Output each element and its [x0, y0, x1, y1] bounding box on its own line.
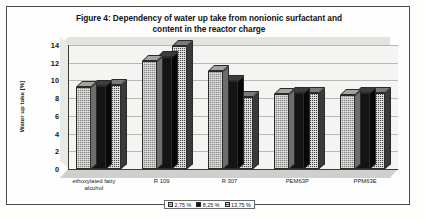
bar: [340, 95, 355, 169]
x-axis-labels: ethoxylated fattyalcoholR 109R 307PEM63P…: [60, 178, 399, 200]
bar-side: [319, 88, 325, 169]
legend-item: 2,75 %: [168, 202, 191, 208]
bar-side: [304, 88, 310, 169]
bar-side: [385, 88, 391, 169]
y-tick-label: 12: [37, 58, 59, 67]
bar-group: [68, 45, 134, 169]
legend-swatch: [168, 202, 173, 207]
bar: [208, 71, 223, 169]
bar-side: [238, 76, 244, 169]
legend-item: 8,25 %: [196, 202, 219, 208]
x-axis-label-line: PPM63E: [353, 178, 376, 184]
bar-side: [355, 90, 361, 169]
bar-group: [134, 45, 200, 169]
bar-side: [370, 88, 376, 169]
bar-group: [266, 45, 332, 169]
bar-group: [200, 45, 266, 169]
y-tick-label: 6: [37, 111, 59, 120]
x-axis-label: PPM63E: [331, 178, 399, 185]
bar-face: [340, 95, 355, 169]
x-axis-label-line: PEM63P: [286, 178, 309, 184]
bar: [76, 87, 91, 169]
plot-area: Water up take [%] 02468101214 ethoxylate…: [7, 7, 411, 204]
bar-groups: [68, 45, 398, 169]
x-axis-label-line: R 307: [222, 178, 238, 184]
bar: [274, 94, 289, 169]
legend-label: 2,75 %: [175, 202, 192, 208]
bar-side: [187, 41, 193, 169]
x-axis-label-line: R 109: [154, 178, 170, 184]
figure-frame: Figure 4: Dependency of water up take fr…: [6, 6, 410, 205]
legend-label: 8,25 %: [203, 202, 220, 208]
y-tick-label: 10: [37, 76, 59, 85]
bar-side: [91, 82, 97, 169]
y-tick-label: 4: [37, 129, 59, 138]
bar-side: [106, 81, 112, 169]
legend-label: 13,75 %: [231, 202, 251, 208]
x-axis-label: R 109: [128, 178, 196, 185]
legend-item: 13,75 %: [225, 202, 251, 208]
y-tick-label: 2: [37, 147, 59, 156]
x-axis-label: R 307: [196, 178, 264, 185]
bar-side: [172, 52, 178, 169]
bar-group: [332, 45, 398, 169]
bar-side: [121, 80, 127, 169]
chart-legend: 2,75 %8,25 %13,75 %: [164, 200, 255, 209]
y-tick-label: 8: [37, 94, 59, 103]
x-axis-line: [68, 169, 398, 170]
x-axis-label: PEM63P: [263, 178, 331, 185]
bar-side: [289, 89, 295, 169]
bar-side: [223, 66, 229, 169]
legend-swatch: [225, 202, 230, 207]
y-axis-ticks: 02468101214: [37, 45, 59, 169]
plot-floor-front: [60, 169, 390, 178]
bar: [142, 61, 157, 169]
y-axis-title: Water up take [%]: [18, 71, 25, 143]
y-tick-label: 14: [37, 41, 59, 50]
y-tick-label: 0: [37, 165, 59, 174]
bar-face: [274, 94, 289, 169]
bar-face: [142, 61, 157, 169]
x-axis-label-line: alcohol: [85, 185, 104, 191]
bar-side: [157, 56, 163, 169]
bar-face: [76, 87, 91, 169]
plot-ceiling: [60, 37, 390, 45]
bar-side: [253, 92, 259, 169]
legend-swatch: [196, 202, 201, 207]
figure-page: Figure 4: Dependency of water up take fr…: [0, 0, 424, 219]
bar-face: [208, 71, 223, 169]
x-axis-label-line: ethoxylated fatty: [72, 178, 115, 184]
x-axis-label: ethoxylated fattyalcohol: [60, 178, 128, 192]
